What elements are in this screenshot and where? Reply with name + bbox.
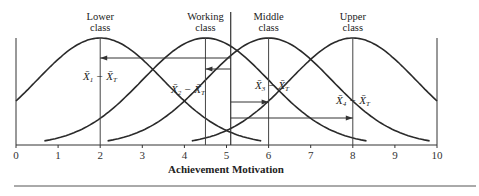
deviation-annotation: X̄2 − X̄T [170, 83, 206, 97]
x-tick-label: 3 [140, 149, 146, 161]
deviation-annotation: X̄4 − X̄T [335, 94, 371, 108]
group-label: class [343, 22, 363, 33]
curve-lower [16, 38, 261, 141]
x-tick-label: 9 [392, 149, 398, 161]
x-axis-ticks: 012345678910 [13, 145, 443, 161]
group-label: Middle [253, 11, 284, 22]
arrowhead-icon [346, 116, 353, 121]
curve-upper [192, 38, 437, 141]
group-label: Working [187, 11, 224, 22]
deviation-arrows [100, 56, 353, 121]
group-label: class [195, 22, 215, 33]
x-tick-label: 7 [308, 149, 314, 161]
x-tick-label: 5 [224, 149, 230, 161]
x-tick-label: 1 [55, 149, 61, 161]
plot-frame [16, 38, 437, 145]
distribution-curves [16, 38, 437, 141]
x-tick-label: 2 [97, 149, 103, 161]
achievement-motivation-chart: 012345678910 LowerclassWorkingclassMiddl… [0, 0, 479, 196]
x-axis-label: Achievement Motivation [168, 163, 284, 175]
group-mean-lines [100, 38, 353, 145]
arrowhead-icon [100, 56, 107, 61]
deviation-annotation: X̄1 − X̄T [82, 70, 118, 84]
x-tick-label: 10 [432, 149, 444, 161]
arrowhead-icon [205, 67, 212, 72]
group-label: Upper [340, 11, 367, 22]
group-labels: LowerclassWorkingclassMiddleclassUppercl… [86, 11, 366, 33]
deviation-annotation: X̄3 − X̄T [254, 79, 290, 93]
x-tick-label: 8 [350, 149, 356, 161]
x-tick-label: 6 [266, 149, 272, 161]
x-tick-label: 0 [13, 149, 19, 161]
x-tick-label: 4 [182, 149, 188, 161]
group-label: class [90, 22, 110, 33]
group-label: Lower [86, 11, 114, 22]
group-label: class [258, 22, 278, 33]
